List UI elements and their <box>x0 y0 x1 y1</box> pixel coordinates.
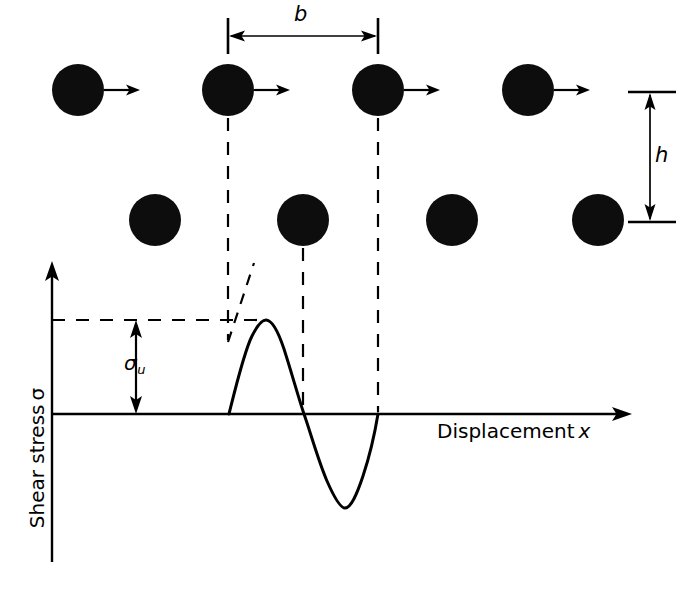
vertical-guide-lines <box>228 118 378 412</box>
y-axis-label: Shear stressσ <box>27 358 47 558</box>
atom-circle <box>502 64 554 116</box>
dimension-h-label: h <box>655 145 668 166</box>
peak-stress-symbol: σ <box>124 351 137 375</box>
y-axis-label-symbol: σ <box>25 388 49 401</box>
atom-row-top <box>52 64 590 116</box>
atom-bottom-3 <box>426 194 478 246</box>
atom-top-3 <box>352 64 440 116</box>
x-axis-label: Displacementx <box>437 421 590 441</box>
initial-slope-tangent-line <box>228 263 254 342</box>
y-axis-label-text: Shear stress <box>25 405 49 529</box>
atom-row-bottom <box>129 194 624 246</box>
peak-stress-subscript: u <box>137 362 145 377</box>
dimension-h <box>628 92 676 222</box>
atom-circle <box>202 64 254 116</box>
x-axis-label-text: Displacement <box>437 419 575 443</box>
atom-bottom-2 <box>277 194 329 246</box>
peak-stress-label: σu <box>124 353 145 376</box>
atom-top-1 <box>52 64 140 116</box>
atom-bottom-1 <box>129 194 181 246</box>
diagram-canvas <box>0 0 676 591</box>
atom-bottom-4 <box>572 194 624 246</box>
plot-axes <box>45 261 632 562</box>
atom-circle <box>352 64 404 116</box>
atom-top-4 <box>502 64 590 116</box>
dimension-b-label: b <box>294 4 307 25</box>
atom-circle <box>52 64 104 116</box>
atom-top-2 <box>202 64 290 116</box>
x-axis-label-symbol: x <box>579 419 591 443</box>
shear-strength-diagram: b h σu Displacementx Shear stressσ <box>0 0 676 591</box>
